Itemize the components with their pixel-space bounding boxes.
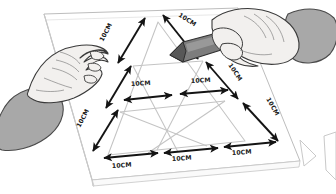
label-bottom-center: 10CM bbox=[172, 154, 192, 162]
partial-object-bottom-right bbox=[300, 132, 336, 180]
label-bottom-left: 10CM bbox=[112, 161, 132, 169]
illustration-canvas: 10CM 10CM 10CM 10CM 10CM 10CM 10CM 10CM … bbox=[0, 0, 336, 194]
drawing-svg: 10CM 10CM 10CM 10CM 10CM 10CM 10CM 10CM … bbox=[0, 0, 336, 194]
right-hand-holding-pencil bbox=[212, 8, 336, 66]
label-mid-left: 10CM bbox=[131, 79, 151, 87]
label-bottom-right: 10CM bbox=[232, 148, 252, 156]
label-mid-right: 10CM bbox=[191, 76, 211, 84]
